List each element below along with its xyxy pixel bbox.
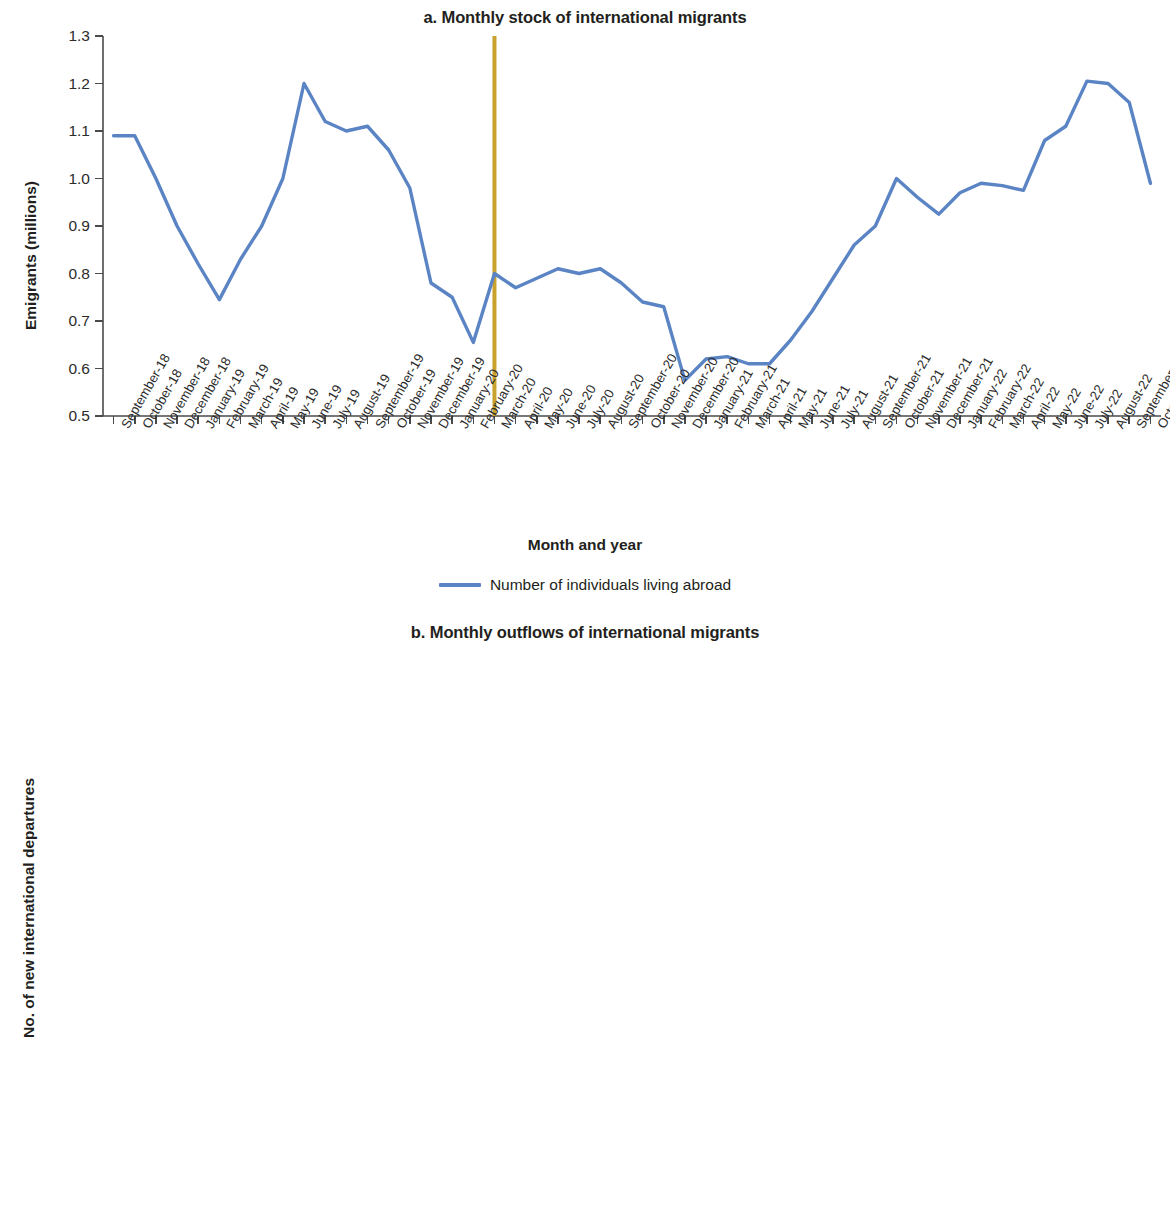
panel-b-title: b. Monthly outflows of international mig… [0,623,1170,642]
panel-a-title: a. Monthly stock of international migran… [0,8,1170,27]
y-tick-mark [95,35,103,37]
series-line-0 [114,81,1151,380]
x-tick-label: September-18 [119,424,130,431]
y-tick-mark [95,320,103,322]
x-tick-label: January-22 [965,424,976,431]
x-tick-label: November-19 [415,424,426,431]
x-tick-label: December-21 [944,424,955,431]
x-tick-label: March-19 [246,424,257,431]
x-tick-label: December-20 [690,424,701,431]
x-tick-label: February-20 [478,424,489,431]
x-tick-label: July-19 [330,424,341,431]
panel-a-legend: Number of individuals living abroad [0,576,1170,594]
x-tick-label: August-20 [605,424,616,431]
panel-b-y-axis-title: No. of new international departures [20,778,38,1038]
x-tick-label: October-18 [140,424,151,431]
panel-monthly-stock: a. Monthly stock of international migran… [0,0,1170,605]
panel-monthly-outflows: b. Monthly outflows of international mig… [0,608,1170,1226]
x-tick-label: December-18 [182,424,193,431]
x-tick-label: September-20 [626,424,637,431]
x-tick-label: November-18 [161,424,172,431]
y-tick-label: 0.9 [42,218,90,234]
x-tick-label: September-22 [1134,424,1145,431]
x-tick-label: April-20 [521,424,532,431]
panel-a-x-axis-title: Month and year [0,536,1170,554]
x-tick-label: December-19 [436,424,447,431]
x-tick-label: August-22 [1113,424,1124,431]
y-tick-label: 1.3 [42,28,90,44]
legend-label: Number of individuals living abroad [490,576,731,594]
y-tick-label: 0.6 [42,361,90,377]
panel-a-y-axis-title: Emigrants (millions) [22,181,40,330]
figure-page: a. Monthly stock of international migran… [0,0,1170,1226]
x-tick-label: November-20 [669,424,680,431]
x-tick-label: April-21 [775,424,786,431]
y-tick-mark [95,368,103,370]
x-tick-label: October-20 [648,424,659,431]
x-tick-label: May-19 [288,424,299,431]
y-tick-mark [95,415,103,417]
panel-a-chart-svg [103,36,1161,416]
y-tick-mark [95,83,103,85]
panel-a-x-tick-labels: September-18October-18November-18Decembe… [0,424,1170,544]
y-tick-mark [95,225,103,227]
x-tick-label: July-22 [1092,424,1103,431]
y-tick-mark [95,130,103,132]
x-tick-label: June-19 [309,424,320,431]
y-tick-label: 1.0 [42,171,90,187]
x-tick-label: February-22 [986,424,997,431]
x-tick-label: July-20 [584,424,595,431]
y-tick-label: 1.1 [42,123,90,139]
x-tick-label: June-20 [563,424,574,431]
legend-color-swatch [439,583,481,587]
y-tick-label: 0.8 [42,266,90,282]
x-tick-label: March-20 [499,424,510,431]
x-tick-mark [113,416,115,424]
x-tick-label: February-21 [732,424,743,431]
x-tick-label: June-22 [1071,424,1082,431]
y-tick-mark [95,273,103,275]
y-tick-label: 1.2 [42,76,90,92]
y-tick-label: 0.7 [42,313,90,329]
x-tick-label: April-22 [1028,424,1039,431]
x-tick-label: May-20 [542,424,553,431]
x-tick-label: May-22 [1050,424,1061,431]
x-tick-label: January-19 [203,424,214,431]
x-tick-label: January-20 [457,424,468,431]
x-tick-label: August-19 [351,424,362,431]
x-tick-label: March-22 [1007,424,1018,431]
x-tick-label: October-21 [902,424,913,431]
x-tick-label: January-21 [711,424,722,431]
x-tick-label: March-21 [753,424,764,431]
x-tick-label: August-21 [859,424,870,431]
x-tick-label: July-21 [838,424,849,431]
x-tick-label: May-21 [796,424,807,431]
legend-item[interactable]: Number of individuals living abroad [439,576,731,594]
x-tick-label: October-19 [394,424,405,431]
y-tick-mark [95,178,103,180]
x-tick-label: April-19 [267,424,278,431]
x-tick-label: February-19 [224,424,235,431]
panel-a-plot-area [103,36,1161,416]
x-tick-label: November-21 [923,424,934,431]
x-tick-label: September-21 [880,424,891,431]
x-tick-label: June-21 [817,424,828,431]
x-tick-label: September-19 [373,424,384,431]
y-tick-label: 0.5 [42,408,90,424]
x-tick-label: October-22 [1155,424,1166,431]
